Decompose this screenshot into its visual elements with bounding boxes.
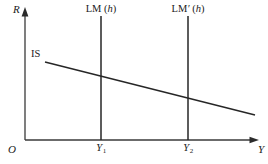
is-lm-diagram: R Y O IS LM (h) LM′ (h) Y1 Y2 <box>0 0 268 164</box>
diagram-canvas <box>0 0 268 164</box>
x-tick-y2-subscript: 2 <box>190 147 194 155</box>
x-tick-y1-subscript: 1 <box>103 147 107 155</box>
x-tick-y1-base: Y <box>96 142 102 153</box>
lm-prime-label-prefix: LM <box>172 3 188 14</box>
lm-prime-curve-label: LM′ (h) <box>172 4 205 15</box>
y-axis-label: Y <box>258 144 264 155</box>
lm-label-paren-close: ) <box>113 3 117 14</box>
x-tick-label-y1: Y1 <box>96 143 105 154</box>
r-axis-label: R <box>13 4 20 15</box>
x-tick-y2-base: Y <box>183 142 189 153</box>
is-curve-label: IS <box>31 49 40 60</box>
is-curve <box>45 62 255 115</box>
origin-label: O <box>8 144 16 155</box>
x-tick-label-y2: Y2 <box>183 143 192 154</box>
lm-curve-label: LM (h) <box>86 4 117 15</box>
lm-label-prefix: LM <box>86 3 102 14</box>
r-axis-arrowhead <box>22 7 29 17</box>
lm-prime-label-paren-close: ) <box>201 3 205 14</box>
